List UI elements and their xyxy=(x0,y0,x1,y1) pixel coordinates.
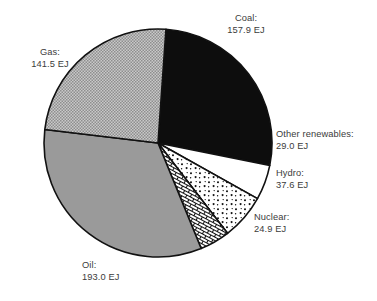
pie-chart: Coal: 157.9 EJ Gas: 141.5 EJ Other renew… xyxy=(0,0,377,301)
slice-label-hydro-value: 37.6 EJ xyxy=(276,179,370,191)
pie-slice-coal xyxy=(158,29,272,165)
slice-label-coal-value: 157.9 EJ xyxy=(198,24,294,36)
slice-label-coal-name: Coal: xyxy=(198,12,294,24)
slice-label-other-renewables-name: Other renewables: xyxy=(276,128,376,140)
slice-label-nuclear-value: 24.9 EJ xyxy=(254,223,348,235)
slice-label-other-renewables-value: 29.0 EJ xyxy=(276,140,376,152)
slice-label-gas: Gas: 141.5 EJ xyxy=(6,46,94,70)
slice-label-hydro-name: Hydro: xyxy=(276,167,370,179)
slice-label-gas-value: 141.5 EJ xyxy=(6,58,94,70)
slice-label-oil-value: 193.0 EJ xyxy=(82,271,164,283)
slice-label-oil: Oil: 193.0 EJ xyxy=(82,259,164,283)
slice-label-nuclear-name: Nuclear: xyxy=(254,211,348,223)
slice-label-oil-name: Oil: xyxy=(82,259,164,271)
slice-label-other-renewables: Other renewables: 29.0 EJ xyxy=(276,128,376,152)
slice-label-hydro: Hydro: 37.6 EJ xyxy=(276,167,370,191)
slice-label-coal: Coal: 157.9 EJ xyxy=(198,12,294,36)
slice-label-gas-name: Gas: xyxy=(6,46,94,58)
slice-label-nuclear: Nuclear: 24.9 EJ xyxy=(254,211,348,235)
